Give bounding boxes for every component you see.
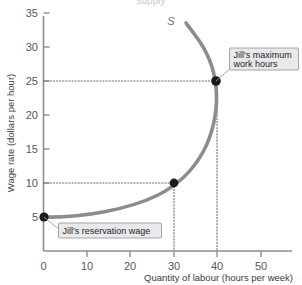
- y-axis-title: Wage rate (dollars per hour): [5, 74, 16, 192]
- x-tick-label-30: 30: [168, 260, 180, 272]
- y-tick-label-30: 30: [26, 41, 38, 53]
- chart-svg: supply: [0, 0, 302, 285]
- x-tick-label-0: 0: [40, 260, 46, 272]
- chart-background: [0, 0, 302, 285]
- data-point-30-10: [170, 179, 179, 188]
- x-tick-label-50: 50: [255, 260, 267, 272]
- y-tick-label-10: 10: [26, 177, 38, 189]
- clipped-title-fragment: supply: [137, 0, 166, 6]
- y-tick-label-35: 35: [26, 7, 38, 19]
- x-tick-label-20: 20: [124, 260, 136, 272]
- x-axis-title: Quantity of labour (hours per week): [144, 272, 293, 283]
- y-tick-label-20: 20: [26, 109, 38, 121]
- callout-reservation-wage-line1: Jill's reservation wage: [63, 226, 151, 236]
- callout-max-work-hours-line2: work hours: [233, 59, 279, 69]
- labour-supply-chart-figure: supply: [0, 0, 302, 285]
- y-tick-label-25: 25: [26, 75, 38, 87]
- x-tick-label-40: 40: [211, 260, 223, 272]
- y-tick-label-15: 15: [26, 143, 38, 155]
- y-tick-label-5: 5: [32, 211, 38, 223]
- supply-curve-label: S: [167, 15, 175, 27]
- callout-max-work-hours-line1: Jill's maximum: [234, 50, 292, 60]
- x-tick-label-10: 10: [81, 260, 93, 272]
